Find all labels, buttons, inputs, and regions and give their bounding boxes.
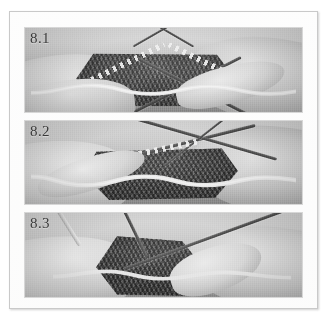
photo-panel-stack: 8.1 (24, 27, 303, 298)
photo-panel-8-2[interactable]: 8.2 (24, 120, 303, 206)
figure-frame: 8.1 (9, 11, 318, 309)
figure-label-8-1: 8.1 (30, 31, 50, 46)
working-yarn-strand (53, 265, 291, 285)
photo-panel-8-3[interactable]: 8.3 (24, 212, 303, 298)
figure-page: 8.1 (0, 0, 329, 329)
figure-label-8-3: 8.3 (30, 216, 50, 231)
photo-panel-8-1[interactable]: 8.1 (24, 27, 303, 113)
working-yarn-strand (31, 169, 297, 191)
working-yarn-strand (31, 81, 297, 99)
figure-label-8-2: 8.2 (30, 124, 50, 139)
